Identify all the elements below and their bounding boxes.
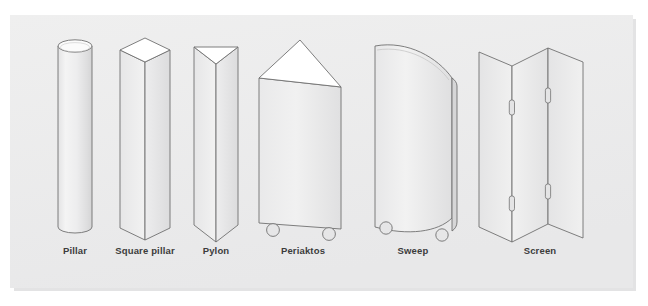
pylon-right-face	[216, 47, 238, 242]
scenic-units-figure: Pillar Square pillar Pylon Periaktos	[0, 0, 648, 306]
sweep-caster-right	[436, 229, 448, 241]
label-periaktos: Periaktos	[281, 245, 325, 256]
sweep-front-face	[375, 45, 452, 232]
sweep-edge-strip	[452, 78, 457, 231]
screen-panel-2	[512, 48, 548, 242]
square-pillar-left-face	[120, 50, 145, 240]
label-screen: Screen	[524, 245, 557, 256]
label-pillar: Pillar	[63, 245, 87, 256]
screen-hinge-upper-right	[545, 88, 550, 103]
label-pylon: Pylon	[203, 245, 230, 256]
label-sweep: Sweep	[398, 245, 429, 256]
screen-hinge-lower-right	[545, 184, 550, 199]
unit-pillar: Pillar	[58, 40, 92, 256]
screen-panel-3	[548, 48, 583, 238]
screen-hinge-lower-left	[509, 196, 514, 211]
label-square-pillar: Square pillar	[115, 245, 175, 256]
unit-periaktos: Periaktos	[259, 40, 341, 256]
periaktos-caster-right	[323, 228, 336, 241]
unit-screen: Screen	[479, 48, 583, 256]
scenic-units-svg: Pillar Square pillar Pylon Periaktos	[0, 0, 648, 306]
sweep-caster-left	[380, 222, 392, 234]
square-pillar-right-face	[145, 50, 170, 240]
pylon-left-face	[194, 47, 216, 242]
unit-square-pillar: Square pillar	[115, 38, 175, 256]
unit-pylon: Pylon	[194, 47, 238, 256]
pillar-top-face	[58, 40, 92, 52]
pillar-body	[58, 46, 92, 233]
screen-hinge-upper-left	[509, 100, 514, 115]
periaktos-caster-left	[267, 224, 280, 237]
screen-panel-1	[479, 52, 512, 242]
periaktos-front-face	[259, 78, 341, 229]
